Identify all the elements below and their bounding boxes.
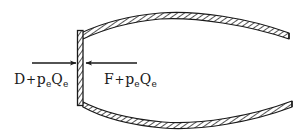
- drag-plus-exit-pressure-label: D+peQe: [14, 72, 68, 89]
- left-label-operator: +: [25, 73, 36, 87]
- left-label-second-symbol: Q: [51, 71, 63, 87]
- lower-shell-wall: [81, 101, 292, 129]
- sketch-canvas: [0, 0, 303, 136]
- figure-root: D+peQe F+peQe: [0, 0, 303, 136]
- left-label-term-symbol: p: [37, 71, 46, 87]
- left-label-symbol: D: [14, 71, 25, 87]
- right-label-operator: +: [114, 73, 125, 87]
- upper-shell-wall: [81, 12, 289, 39]
- vertical-closure-wall: [78, 31, 84, 106]
- right-label-symbol: F: [104, 71, 114, 87]
- right-label-second-subscript: e: [151, 79, 156, 89]
- right-label-term-symbol: p: [125, 71, 134, 87]
- thrust-plus-exit-pressure-label: F+peQe: [104, 72, 157, 89]
- left-label-second-subscript: e: [63, 79, 68, 89]
- right-label-second-symbol: Q: [140, 71, 152, 87]
